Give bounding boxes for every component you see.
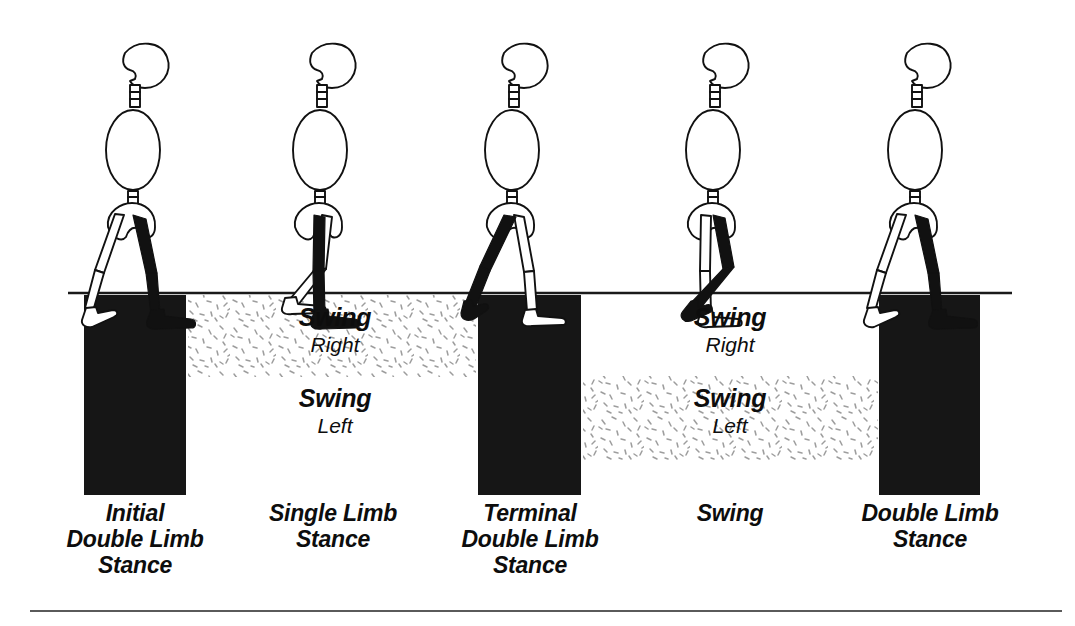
swing-side-text: Left: [650, 413, 810, 438]
swing-label-right-2: Swing Right: [650, 303, 810, 357]
caption-terminal-double-limb-stance: Terminal Double Limb Stance: [437, 500, 623, 578]
swing-label-right-1: Swing Right: [255, 303, 415, 357]
caption-initial-double-limb-stance: Initial Double Limb Stance: [45, 500, 225, 578]
swing-label-left-1: Swing Left: [255, 384, 415, 438]
swing-main-text: Swing: [650, 303, 810, 332]
swing-main-text: Swing: [255, 384, 415, 413]
swing-main-text: Swing: [255, 303, 415, 332]
gait-cycle-figure: Swing Right Swing Left Swing Right Swing…: [0, 0, 1075, 626]
walker-4: [681, 44, 748, 328]
caption-double-limb-stance: Double Limb Stance: [835, 500, 1025, 552]
walker-3: [461, 44, 566, 327]
walker-2: [282, 44, 360, 330]
swing-side-text: Right: [255, 332, 415, 357]
walker-5: [864, 44, 978, 330]
swing-main-text: Swing: [650, 384, 810, 413]
caption-swing: Swing: [650, 500, 810, 526]
swing-side-text: Right: [650, 332, 810, 357]
walker-1: [82, 44, 196, 330]
swing-label-left-2: Swing Left: [650, 384, 810, 438]
caption-single-limb-stance: Single Limb Stance: [240, 500, 426, 552]
swing-side-text: Left: [255, 413, 415, 438]
